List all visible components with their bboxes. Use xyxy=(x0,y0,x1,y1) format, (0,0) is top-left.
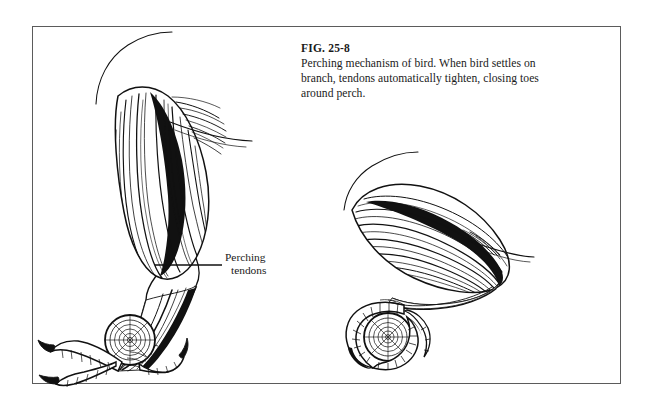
perching-tendons-label: Perching tendons xyxy=(225,251,295,278)
callout-label-line-1: Perching xyxy=(225,251,295,264)
figure-page: FIG. 25-8 Perching mechanism of bird. Wh… xyxy=(0,0,649,406)
figure-caption: FIG. 25-8 Perching mechanism of bird. Wh… xyxy=(301,41,546,102)
caption-title: FIG. 25-8 xyxy=(301,41,546,55)
caption-body: Perching mechanism of bird. When bird se… xyxy=(301,56,546,102)
callout-label-line-2: tendons xyxy=(225,264,295,277)
